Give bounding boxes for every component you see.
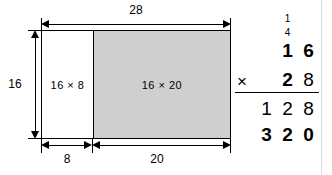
left-dimension-arrowhead-bottom [31, 131, 39, 139]
bottom-segment-8-arrowhead-right [84, 141, 92, 149]
partial-product-2-digit-tens: 2 [277, 125, 298, 144]
multiplicand-row: 0 1 6 [237, 39, 319, 61]
partial-product-1-digit-hundreds: 1 [256, 99, 277, 118]
long-multiplication: 0 1 0 0 4 0 0 1 6 0 2 8 × 1 2 8 [237, 12, 319, 152]
carry-digit-1: 1 [277, 14, 298, 24]
area-model-rectangle: 16 × 8 16 × 20 [41, 30, 231, 139]
multiplication-operator: × [237, 73, 247, 90]
partial-product-row-1: 1 2 8 [237, 97, 319, 119]
bottom-segment-20-arrowhead-right [223, 141, 231, 149]
bottom-segment-8-arrowhead-left [41, 141, 49, 149]
scan-edge-line [321, 0, 322, 175]
top-dimension-arrowhead-left [41, 20, 49, 28]
carry-digit-2: 4 [277, 28, 298, 38]
bottom-segment-8-line [44, 145, 89, 146]
partial-product-1-digit-tens: 2 [277, 99, 298, 118]
partial-product-1-digit-ones: 8 [298, 99, 319, 118]
bottom-segment-8-label: 8 [46, 152, 88, 166]
figure-canvas: 28 16 16 × 8 16 × 20 8 20 [0, 0, 332, 175]
multiplicand-digit-tens: 1 [277, 41, 298, 60]
top-dimension-arrowhead-right [223, 20, 231, 28]
area-region-unshaded-label: 16 × 8 [42, 79, 93, 91]
top-dimension-line [44, 24, 227, 25]
left-dimension-arrowhead-top [31, 30, 39, 38]
carry-row-2: 0 4 0 [237, 26, 319, 39]
area-region-shaded-label: 16 × 20 [94, 79, 230, 91]
partial-product-2-digit-hundreds: 3 [256, 125, 277, 144]
multiplier-digit-tens: 2 [277, 70, 298, 89]
bottom-segment-20-arrowhead-left [92, 141, 100, 149]
left-dimension-label: 16 [2, 77, 28, 91]
left-dimension-line [35, 33, 36, 136]
multiplier-row: 0 2 8 [237, 68, 319, 90]
partial-product-2-digit-ones: 0 [298, 125, 319, 144]
bottom-segment-20-line [95, 145, 227, 146]
partial-product-row-2: 3 2 0 [237, 123, 319, 145]
multiplicand-digit-ones: 6 [298, 41, 319, 60]
bottom-segment-20-label: 20 [131, 152, 183, 166]
multiplication-rule [235, 92, 319, 93]
area-region-unshaded: 16 × 8 [42, 31, 93, 138]
carry-row-1: 0 1 0 [237, 12, 319, 25]
area-region-shaded: 16 × 20 [93, 31, 230, 138]
top-dimension-label: 28 [106, 3, 166, 17]
multiplier-digit-ones: 8 [298, 70, 319, 89]
